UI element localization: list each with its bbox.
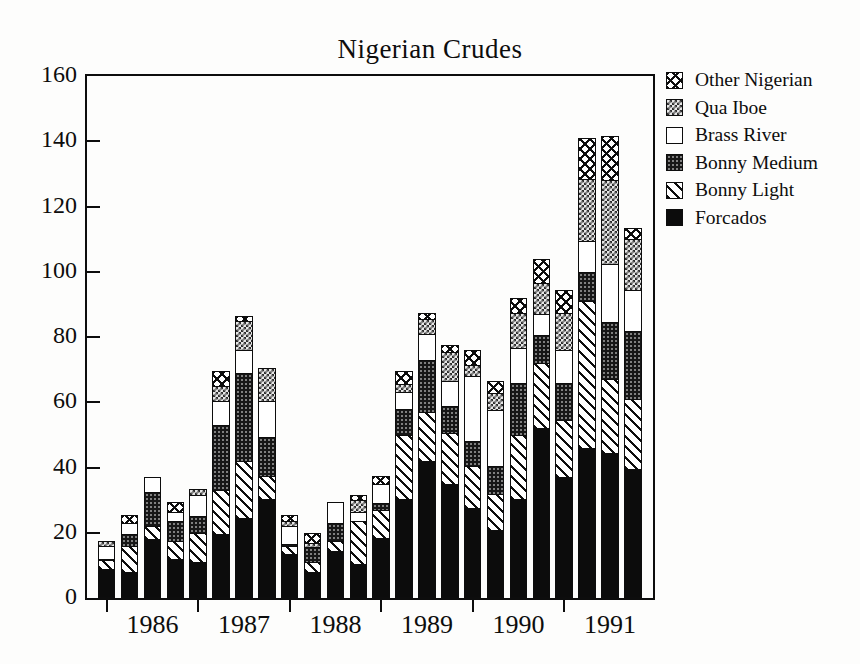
segment-forcados (258, 499, 276, 599)
segment-forcados (281, 554, 299, 598)
bar-1986-q1 (98, 541, 116, 598)
segment-bonny-light (441, 433, 459, 484)
segment-brass-river (212, 401, 230, 425)
segment-bonny-medium (144, 492, 162, 526)
segment-brass-river (189, 495, 207, 516)
segment-brass-river (441, 381, 459, 405)
bar-1987-q1 (189, 489, 207, 598)
y-axis-label-0: 0 (25, 583, 77, 610)
segment-brass-river (235, 350, 253, 373)
segment-forcados (533, 428, 551, 598)
segment-qua-iboe (555, 313, 573, 351)
segment-brass-river (578, 241, 596, 272)
y-axis-label-20: 20 (25, 518, 77, 545)
y-axis-label-160: 160 (25, 61, 77, 88)
legend-label-qua-iboe: Qua Iboe (695, 97, 767, 119)
bar-1990-q4 (533, 259, 551, 598)
bar-1991-q4 (624, 228, 642, 598)
segment-qua-iboe (258, 368, 276, 401)
segment-brass-river (395, 392, 413, 408)
segment-forcados (304, 572, 322, 598)
segment-bonny-light (418, 412, 436, 461)
bar-1991-q3 (601, 136, 619, 598)
bar-1989-q2 (395, 371, 413, 598)
segment-bonny-light (395, 435, 413, 499)
y-axis-label-60: 60 (25, 388, 77, 415)
segment-bonny-light (372, 510, 390, 538)
y-axis-tick-40 (87, 467, 100, 469)
segment-qua-iboe (418, 319, 436, 334)
legend-entry-brass-river: Brass River (666, 127, 818, 143)
y-axis-tick-100 (87, 271, 100, 273)
legend-swatch-brass-river (666, 127, 683, 144)
segment-bonny-light (487, 494, 505, 530)
bar-1986-q3 (144, 477, 162, 598)
segment-other-nigerian (464, 350, 482, 365)
segment-forcados (372, 538, 390, 598)
segment-brass-river (418, 334, 436, 360)
segment-qua-iboe (464, 365, 482, 376)
segment-bonny-medium (327, 523, 345, 541)
bar-1988-q2 (304, 533, 322, 598)
plot-inner: 020406080100120140160 198619871988198919… (87, 76, 653, 598)
segment-qua-iboe (350, 500, 368, 511)
legend-entry-bonny-light: Bonny Light (666, 182, 818, 198)
legend-swatch-bonny-light (666, 182, 683, 199)
segment-other-nigerian (624, 228, 642, 239)
segment-forcados (464, 508, 482, 598)
segment-bonny-medium (624, 331, 642, 400)
bar-1987-q2 (212, 371, 230, 598)
bar-1987-q3 (235, 316, 253, 598)
segment-bonny-medium (418, 360, 436, 412)
segment-bonny-medium (578, 272, 596, 301)
segment-bonny-medium (555, 383, 573, 421)
segment-bonny-medium (212, 425, 230, 490)
legend-entry-bonny-medium: Bonny Medium (666, 155, 818, 171)
segment-qua-iboe (510, 313, 528, 349)
legend-label-bonny-light: Bonny Light (695, 179, 794, 201)
segment-qua-iboe (578, 179, 596, 241)
segment-forcados (121, 572, 139, 598)
segment-forcados (144, 539, 162, 598)
segment-bonny-light (510, 435, 528, 499)
segment-forcados (212, 534, 230, 598)
segment-forcados (441, 484, 459, 598)
segment-bonny-medium (258, 437, 276, 476)
segment-bonny-light (167, 541, 185, 559)
y-axis-tick-120 (87, 206, 100, 208)
segment-bonny-light (327, 541, 345, 551)
legend-entry-other-nigerian: Other Nigerian (666, 72, 818, 88)
segment-brass-river (98, 546, 116, 559)
segment-bonny-light (578, 301, 596, 448)
segment-bonny-light (350, 521, 368, 563)
segment-forcados (624, 469, 642, 598)
segment-bonny-light (144, 526, 162, 539)
segment-forcados (189, 562, 207, 598)
segment-qua-iboe (441, 352, 459, 381)
legend-swatch-forcados (666, 209, 683, 226)
bar-1987-q4 (258, 368, 276, 598)
segment-bonny-light (121, 546, 139, 572)
y-axis-tick-80 (87, 336, 100, 338)
segment-qua-iboe (533, 283, 551, 314)
segment-brass-river (555, 350, 573, 383)
segment-qua-iboe (624, 239, 642, 290)
segment-brass-river (510, 348, 528, 382)
segment-brass-river (327, 502, 345, 523)
bar-1989-q4 (441, 345, 459, 598)
segment-other-nigerian (304, 533, 322, 543)
legend: Other NigerianQua IboeBrass RiverBonny M… (666, 72, 818, 237)
legend-entry-forcados: Forcados (666, 210, 818, 226)
segment-forcados (510, 499, 528, 599)
segment-bonny-light (464, 466, 482, 508)
segment-bonny-light (281, 546, 299, 554)
x-axis-label-1991: 1991 (550, 610, 670, 640)
bar-1991-q2 (578, 138, 596, 598)
segment-forcados (395, 499, 413, 599)
chart-title: Nigerian Crudes (85, 34, 775, 65)
y-axis-tick-20 (87, 532, 100, 534)
legend-swatch-qua-iboe (666, 99, 683, 116)
segment-other-nigerian (487, 381, 505, 392)
segment-bonny-light (624, 399, 642, 469)
y-axis-label-140: 140 (25, 127, 77, 154)
